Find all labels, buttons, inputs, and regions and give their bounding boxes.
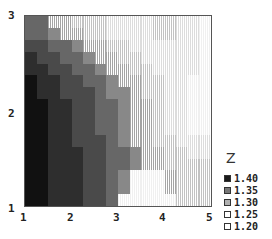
- heatmap-cell: [176, 28, 188, 40]
- heatmap-cell: [118, 182, 130, 194]
- heatmap-cell: [141, 135, 153, 147]
- heatmap-cell: [141, 28, 153, 40]
- heatmap-cell: [165, 182, 177, 194]
- heatmap-cell: [37, 170, 49, 182]
- heatmap-cell: [199, 170, 211, 182]
- heatmap-cell: [60, 123, 72, 135]
- heatmap-cell: [130, 111, 142, 123]
- heatmap-cell: [95, 40, 107, 52]
- heatmap-cell: [83, 75, 95, 87]
- heatmap-cell: [176, 64, 188, 76]
- heatmap-cell: [118, 52, 130, 64]
- legend-item: 1.35: [224, 185, 258, 196]
- heatmap-cell: [118, 87, 130, 99]
- heatmap-cell: [48, 87, 60, 99]
- legend-label: 1.20: [234, 221, 258, 232]
- heatmap-cell: [37, 147, 49, 159]
- heatmap-cell: [176, 194, 188, 206]
- heatmap-cell: [25, 87, 37, 99]
- heatmap-cell: [176, 123, 188, 135]
- y-tick-2: 2: [8, 108, 15, 119]
- heatmap-cell: [72, 64, 84, 76]
- heatmap-cell: [60, 87, 72, 99]
- heatmap-cell: [188, 28, 200, 40]
- heatmap-cell: [188, 194, 200, 206]
- heatmap-cell: [141, 170, 153, 182]
- heatmap-cell: [37, 28, 49, 40]
- heatmap-cell: [83, 52, 95, 64]
- heatmap-cell: [48, 123, 60, 135]
- heatmap-cell: [95, 28, 107, 40]
- heatmap-cell: [141, 16, 153, 28]
- heatmap-cell: [95, 99, 107, 111]
- heatmap-cell: [176, 99, 188, 111]
- heatmap-cell: [188, 135, 200, 147]
- heatmap-cell: [199, 75, 211, 87]
- heatmap-cell: [106, 170, 118, 182]
- heatmap-cell: [83, 87, 95, 99]
- heatmap-cell: [106, 40, 118, 52]
- heatmap-cell: [199, 52, 211, 64]
- heatmap-cell: [176, 111, 188, 123]
- heatmap-cell: [48, 75, 60, 87]
- heatmap-cell: [60, 64, 72, 76]
- heatmap-cell: [165, 40, 177, 52]
- heatmap-cell: [118, 40, 130, 52]
- heatmap-cell: [188, 87, 200, 99]
- heatmap-cell: [153, 194, 165, 206]
- legend-label: 1.25: [234, 209, 258, 220]
- heatmap-cell: [118, 64, 130, 76]
- heatmap-cell: [25, 75, 37, 87]
- heatmap-cell: [25, 111, 37, 123]
- heatmap-cell: [153, 99, 165, 111]
- heatmap-cell: [188, 123, 200, 135]
- heatmap-cell: [25, 64, 37, 76]
- heatmap-cell: [153, 147, 165, 159]
- heatmap-cell: [72, 170, 84, 182]
- heatmap-cell: [199, 123, 211, 135]
- heatmap-cell: [188, 16, 200, 28]
- heatmap-cell: [37, 16, 49, 28]
- heatmap-cell: [153, 87, 165, 99]
- heatmap-cell: [83, 111, 95, 123]
- heatmap-cell: [48, 147, 60, 159]
- heatmap-cell: [72, 147, 84, 159]
- heatmap-cell: [48, 28, 60, 40]
- heatmap-cell: [130, 16, 142, 28]
- heatmap-cell: [165, 147, 177, 159]
- heatmap-cell: [37, 159, 49, 171]
- heatmap-cell: [130, 147, 142, 159]
- heatmap-cell: [106, 147, 118, 159]
- heatmap-cell: [130, 64, 142, 76]
- y-tick-1: 1: [8, 203, 15, 214]
- heatmap-cell: [72, 75, 84, 87]
- heatmap-cell: [141, 111, 153, 123]
- heatmap-cell: [188, 40, 200, 52]
- heatmap-cell: [37, 40, 49, 52]
- heatmap-cell: [176, 52, 188, 64]
- heatmap-plot-area: [24, 15, 212, 207]
- heatmap-cell: [83, 159, 95, 171]
- heatmap-cell: [118, 194, 130, 206]
- heatmap-cell: [60, 135, 72, 147]
- heatmap-cell: [165, 16, 177, 28]
- heatmap-cell: [130, 28, 142, 40]
- heatmap-cell: [106, 75, 118, 87]
- legend-item: 1.20: [224, 221, 258, 232]
- heatmap-cell: [141, 64, 153, 76]
- heatmap-cell: [176, 75, 188, 87]
- heatmap-cell: [199, 182, 211, 194]
- legend-title: Z: [226, 150, 236, 166]
- heatmap-cell: [153, 75, 165, 87]
- heatmap-cell: [83, 147, 95, 159]
- heatmap-cell: [106, 194, 118, 206]
- heatmap-cell: [130, 170, 142, 182]
- x-tick-4: 4: [159, 212, 166, 223]
- heatmap-cell: [165, 111, 177, 123]
- heatmap-cell: [165, 170, 177, 182]
- heatmap-cell: [199, 159, 211, 171]
- heatmap-cell: [37, 99, 49, 111]
- heatmap-cell: [106, 87, 118, 99]
- heatmap-cell: [118, 147, 130, 159]
- heatmap-cell: [72, 111, 84, 123]
